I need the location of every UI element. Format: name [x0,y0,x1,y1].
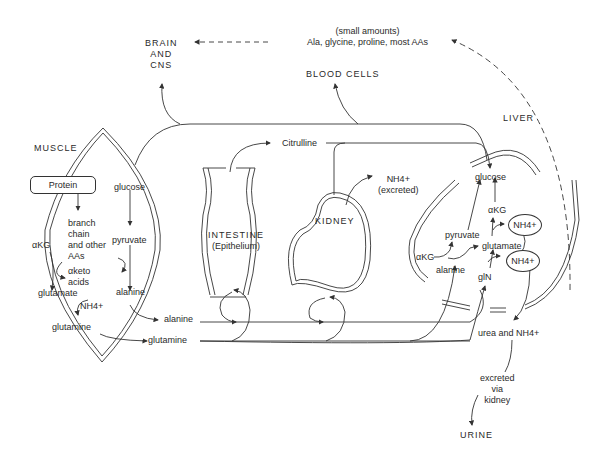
blood-glutamine-label: glutamine [148,335,187,346]
label-line: via [480,384,515,395]
muscle-glutamine-label: glutamine [52,322,91,333]
brain-supply-line1: (small amounts) [307,26,428,37]
brain-cns-label: BRAIN AND CNS [145,38,178,71]
label-line: chain [68,229,106,240]
liver-gln-label: glN [478,272,492,283]
liver-label: LIVER [503,113,534,124]
label-line: αketo [68,266,90,277]
urine-label: URINE [460,430,493,441]
liver-glucose-label: glucose [475,172,506,183]
kidney-excreted: (excreted) [378,185,419,196]
label-line: branch [68,218,106,229]
muscle-label: MUSCLE [34,143,78,154]
blood-alanine-label: alanine [164,314,193,325]
liver-alanine-label: alanine [436,265,465,276]
aketo-acids-label: αketo acids [68,266,90,288]
muscle-pyruvate-label: pyruvate [112,235,147,246]
liver-nh4-top-oval: NH4+ [508,214,542,236]
label-line: acids [68,277,90,288]
intestine-title: INTESTINE [208,230,264,241]
intestine-label: INTESTINE (Epithelium) [208,230,264,252]
muscle-glucose-label: glucose [114,182,145,193]
liver-akg-left-label: αKG [416,252,434,263]
muscle-glutamate-label: glutamate [38,288,78,299]
muscle-akg-label: αKG [32,240,50,251]
muscle-nh4-label: NH4+ [80,301,103,312]
urea-nh4-label: urea and NH4+ [478,328,539,339]
label-line: kidney [480,395,515,406]
muscle-alanine-label: alanine [116,287,145,298]
kidney-nh4: NH4+ [378,174,419,185]
brain-label-line: BRAIN [145,38,178,49]
kidney-label: KIDNEY [315,216,355,227]
label-line: and other [68,240,106,251]
liver-pyruvate-label: pyruvate [445,230,480,241]
intestine-subtitle: (Epithelium) [208,241,264,252]
citrulline-label: Citrulline [282,138,317,149]
excreted-via-kidney-label: excreted via kidney [480,373,515,406]
protein-box: Protein [30,176,96,194]
liver-nh4-bottom-oval: NH4+ [506,250,540,272]
blood-cells-label: BLOOD CELLS [306,69,380,80]
label-line: AAs [68,251,106,262]
liver-akg-top-label: αKG [488,205,506,216]
kidney-nh4-excreted: NH4+ (excreted) [378,174,419,196]
label-line: excreted [480,373,515,384]
brain-supply-line2: Ala, glycine, proline, most AAs [307,37,428,48]
brain-supply-note: (small amounts) Ala, glycine, proline, m… [307,26,428,48]
branch-chain-aas-label: branch chain and other AAs [68,218,106,262]
brain-label-line: AND [145,49,178,60]
brain-label-line: CNS [145,60,178,71]
